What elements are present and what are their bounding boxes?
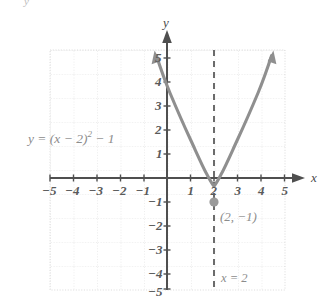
axis-of-symmetry-label: x = 2	[221, 272, 247, 285]
x-tick-label-neg2: −2	[112, 184, 126, 197]
y-tick-label-4: 4	[155, 75, 162, 88]
equation-label-base: y = (x − 2)	[28, 131, 87, 146]
x-tick-label-neg5: −5	[42, 184, 56, 197]
x-tick-label-neg3: −3	[89, 184, 103, 197]
y-tick-label-neg2: −2	[148, 219, 162, 232]
coordinate-plane-svg	[0, 0, 328, 298]
x-tick-label-2: 2	[211, 184, 218, 197]
vertex-coordinate-label: (2, −1)	[220, 210, 257, 223]
y-tick-label-neg1: −1	[148, 195, 162, 208]
x-tick-label-5: 5	[282, 184, 289, 197]
x-tick-label-3: 3	[235, 184, 242, 197]
y-tick-label-neg3: −3	[148, 243, 162, 256]
x-tick-label-neg4: −4	[65, 184, 79, 197]
y-axis-label: y	[163, 16, 169, 29]
x-tick-label-1: 1	[188, 184, 195, 197]
x-axis-label: x	[311, 171, 317, 184]
equation-label-tail: − 1	[92, 131, 115, 146]
y-tick-label-neg4: −4	[148, 267, 162, 280]
y-tick-label-2: 2	[155, 123, 162, 136]
x-tick-label-4: 4	[258, 184, 265, 197]
graph-figure: y	[0, 0, 328, 298]
y-tick-label-neg5: −5	[148, 285, 162, 298]
equation-label: y = (x − 2)2 − 1	[28, 130, 115, 145]
y-tick-label-3: 3	[155, 99, 162, 112]
y-tick-label-5: 5	[155, 51, 162, 64]
vertex-point-marker	[209, 197, 218, 206]
y-tick-label-1: 1	[156, 147, 163, 160]
